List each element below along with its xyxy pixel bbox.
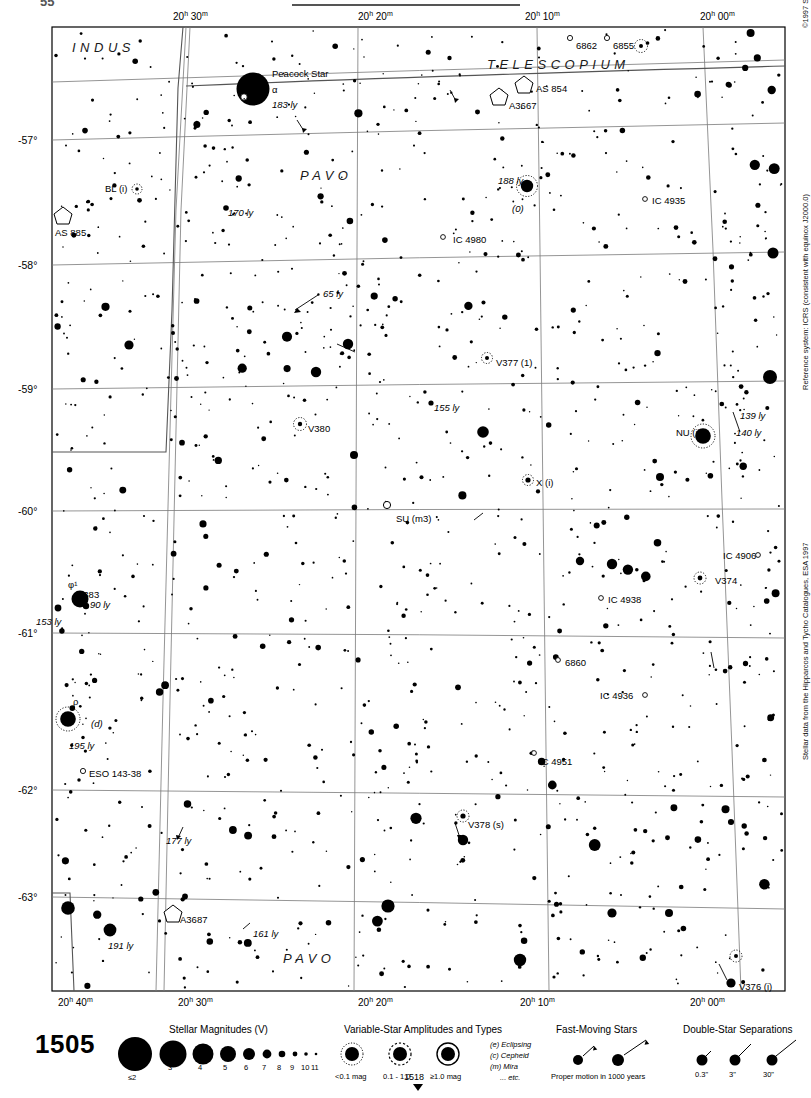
star-chart-page: 55: [0, 0, 811, 1098]
su-pav-marker: [383, 501, 390, 508]
object-label: IC 4938: [608, 595, 641, 605]
bottom-pointer-arrow: [413, 1084, 423, 1091]
variable-type-label: (e) Eclipsing: [490, 1040, 531, 1049]
magnitude-label: 4: [198, 1063, 202, 1072]
fast-moving-legend-title: Fast-Moving Stars: [556, 1024, 637, 1035]
double-star-symbols: [680, 1038, 800, 1072]
object-label: BL (i): [105, 184, 127, 194]
double-star-label: 3": [729, 1070, 736, 1079]
constellation-label: INDUS: [72, 40, 135, 55]
variable-star-cores: [135, 44, 738, 958]
object-label: 6862: [576, 41, 597, 51]
dec-tick: -61°: [18, 627, 37, 639]
object-label: V380: [308, 424, 330, 434]
object-label: ESO 143-38: [89, 769, 141, 779]
object-label: 6855: [613, 41, 634, 51]
bottom-pointer-number: 1518: [404, 1072, 424, 1082]
variable-symbols: [330, 1038, 480, 1072]
variable-type-label: (c) Cepheid: [490, 1051, 529, 1060]
object-label: (0): [512, 204, 524, 214]
object-label: ρ: [73, 697, 78, 707]
ra-tick-top: 20h 00m: [700, 10, 735, 22]
proper-motion-arrows: [176, 90, 740, 980]
object-label: V378 (s): [468, 820, 504, 830]
ra-tick-top: 20h 30m: [173, 10, 208, 22]
variable-type-label: ... etc.: [500, 1073, 520, 1082]
object-label: 153 ly: [36, 617, 61, 627]
object-label: V374: [715, 576, 737, 586]
dec-tick: -57°: [18, 134, 37, 146]
object-label: NU (i): [676, 428, 701, 438]
dec-tick: -62°: [18, 784, 37, 796]
object-label: IC 4951: [539, 757, 572, 767]
object-label: 140 ly: [736, 428, 761, 438]
ra-tick-bottom: 20h 20m: [358, 996, 393, 1008]
object-label: IC 4980: [453, 235, 486, 245]
variable-star-markers: [56, 40, 742, 963]
chart-number: 1505: [35, 1029, 95, 1060]
object-label: IC 4906: [723, 551, 756, 561]
variables-legend-title: Variable-Star Amplitudes and Types: [344, 1024, 502, 1035]
object-label: 90 ly: [90, 600, 110, 610]
magnitude-label: ≤2: [128, 1073, 136, 1082]
ra-tick-bottom: 20h 30m: [178, 996, 213, 1008]
coordinate-grid: [52, 27, 785, 991]
constellation-label: PAVO: [300, 168, 352, 183]
magnitude-label: 7: [262, 1063, 266, 1072]
object-label: V376 (i): [739, 982, 772, 992]
object-label: V377 (1): [496, 358, 532, 368]
double-star-legend-title: Double-Star Separations: [683, 1024, 793, 1035]
dec-tick: -58°: [18, 259, 37, 271]
object-label: IC 4936: [600, 691, 633, 701]
magnitude-label: 3: [168, 1063, 172, 1072]
object-label: SU (m3): [396, 514, 431, 524]
magnitude-label: 5: [223, 1063, 227, 1072]
object-label: X (i): [536, 478, 553, 488]
dec-tick: -63°: [18, 891, 37, 903]
object-label: 65 ly: [323, 289, 343, 299]
reference-system-text: Reference system: ICRS (consistent with …: [801, 194, 810, 390]
ra-tick-top: 20h 10m: [525, 10, 560, 22]
object-label: (d): [91, 719, 103, 729]
dec-tick: -59°: [18, 383, 37, 395]
object-label: 6860: [565, 658, 586, 668]
double-star-label: 0.3": [695, 1070, 708, 1079]
object-label: A3687: [180, 915, 207, 925]
galaxy-markers: [80, 35, 760, 773]
object-label: α: [272, 85, 278, 95]
constellation-label: PAVO: [283, 951, 335, 966]
ra-tick-top: 20h 20m: [358, 10, 393, 22]
magnitude-label: 9: [290, 1063, 294, 1072]
ra-tick-bottom: 20h 10m: [520, 996, 555, 1008]
magnitude-label: 11: [311, 1063, 319, 1072]
object-label: 170 ly: [228, 208, 253, 218]
object-label: 188 ly: [498, 176, 523, 186]
object-label: Peacock Star: [272, 69, 329, 79]
variable-amplitude-label: ≥1.0 mag: [430, 1072, 461, 1081]
object-label: 161 ly: [253, 929, 278, 939]
object-label: 183 ly: [272, 100, 297, 110]
object-label: IC 4935: [652, 196, 685, 206]
object-label: φ¹: [68, 580, 77, 590]
fast-moving-caption: Proper motion in 1000 years: [551, 1072, 645, 1081]
ra-tick-bottom: 20h 00m: [690, 996, 725, 1008]
object-label: AS 885: [55, 228, 86, 238]
variable-amplitude-label: <0.1 mag: [335, 1072, 366, 1081]
ra-tick-bottom: 20h 40m: [58, 996, 93, 1008]
object-label: AS 854: [536, 84, 567, 94]
object-label: 177 ly: [166, 836, 191, 846]
dec-tick: -60°: [18, 505, 37, 517]
object-label: A3667: [509, 101, 536, 111]
magnitude-symbols: [110, 1034, 320, 1074]
object-label: 195 ly: [69, 741, 94, 751]
object-label: 191 ly: [108, 941, 133, 951]
magnitude-label: 10: [301, 1063, 309, 1072]
fast-moving-symbols: [540, 1038, 680, 1072]
data-source-text: Stellar data from the Hipparcos and Tych…: [801, 543, 810, 761]
variable-type-label: (m) Mira: [490, 1062, 518, 1071]
magnitude-label: 8: [277, 1063, 281, 1072]
magnitude-label: 6: [244, 1063, 248, 1072]
object-label: 155 ly: [434, 403, 459, 413]
double-star-label: 30": [763, 1070, 774, 1079]
copyright-text: ©1997 Sky Publishing Corporation: [801, 0, 810, 28]
